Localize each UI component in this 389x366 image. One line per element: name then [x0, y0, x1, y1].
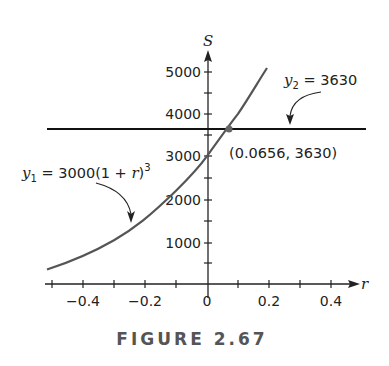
y-tick-label: 1000: [165, 235, 201, 251]
x-tick-label: 0.2: [258, 293, 280, 309]
y-tick-label: 4000: [165, 106, 201, 122]
x-axis: −0.4 −0.2 0 0.2 0.4 r: [45, 275, 369, 309]
y1-pointer-arrow: [96, 183, 131, 214]
y-tick-label: 5000: [165, 64, 201, 80]
figure-chart: −0.4 −0.2 0 0.2 0.4 r 1000 2000 3000 400…: [0, 0, 389, 366]
y-axis: 1000 2000 3000 4000 5000 S: [165, 32, 213, 298]
y-axis-label: S: [203, 32, 213, 50]
y-tick-label: 3000: [165, 148, 201, 164]
y2-label: y2 = 3630: [283, 71, 357, 91]
y2-pointer-arrow: [290, 92, 321, 116]
intersection-point: [226, 126, 233, 133]
x-tick-label: 0.4: [320, 293, 342, 309]
figure-caption: FIGURE 2.67: [116, 329, 267, 349]
x-tick-label: 0: [203, 293, 212, 309]
x-tick-label: −0.2: [128, 293, 162, 309]
y1-label: y1 = 3000(1 + r)3: [21, 162, 151, 184]
x-tick-label: −0.4: [66, 293, 100, 309]
x-axis-label: r: [361, 275, 369, 293]
intersection-label: (0.0656, 3630): [229, 145, 337, 161]
